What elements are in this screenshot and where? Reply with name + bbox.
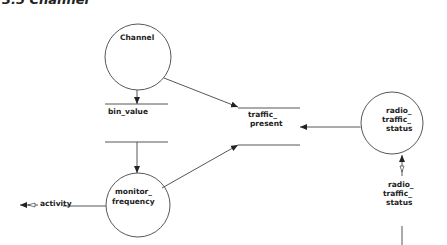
diagram-title: 3.5 Channel xyxy=(2,0,89,7)
flow-monitor-to-traffic-present xyxy=(162,145,238,188)
flow-label-line-1: radio_ xyxy=(388,180,414,189)
flow-marker-icon xyxy=(28,203,35,207)
process-label-line-1: monitor_ xyxy=(115,187,152,196)
flow-label-line-2: traffic_ xyxy=(383,189,412,198)
flow-marker-icon xyxy=(400,166,404,172)
process-radio-traffic-status[interactable]: radio_ traffic_ status xyxy=(361,92,423,154)
flow-radio-traffic-status-in: radio_ traffic_ status xyxy=(383,155,414,245)
store-label-line-2: present xyxy=(250,119,283,128)
process-label: Channel xyxy=(120,33,154,42)
flow-channel-to-traffic-present xyxy=(164,78,238,107)
data-flow-diagram: 3.5 Channel Channel bin_value monitor_ f… xyxy=(0,0,447,245)
process-monitor-frequency[interactable]: monitor_ frequency xyxy=(106,173,170,237)
store-bin-value[interactable]: bin_value xyxy=(105,104,168,142)
process-label-line-1: radio_ xyxy=(386,106,412,115)
store-label-line-1: traffic_ xyxy=(248,110,277,119)
flow-label: activity xyxy=(40,199,72,208)
flow-label-line-3: status xyxy=(386,198,413,207)
process-label-line-2: traffic_ xyxy=(382,115,411,124)
store-traffic-present[interactable]: traffic_ present xyxy=(238,108,300,145)
flow-activity: activity xyxy=(20,199,106,208)
process-label-line-3: status xyxy=(386,124,413,133)
process-channel[interactable]: Channel xyxy=(105,24,171,90)
process-label-line-2: frequency xyxy=(112,197,155,206)
store-label: bin_value xyxy=(108,107,148,116)
